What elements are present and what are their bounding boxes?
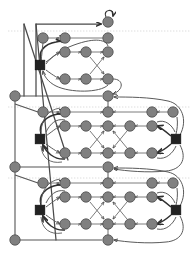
edge-t-sq-to-r2c0 xyxy=(46,70,60,79)
node-top-row0-col0[interactable] xyxy=(38,33,48,43)
node-top-row2-col2[interactable] xyxy=(103,74,113,84)
node-bot-row0-col3[interactable] xyxy=(147,178,157,188)
node-bot-row1-col3[interactable] xyxy=(125,192,135,202)
node-join-lower[interactable] xyxy=(103,162,113,172)
node-bot-row2-col3[interactable] xyxy=(125,219,135,229)
node-bot-row0-col4[interactable] xyxy=(168,178,178,188)
node-mid-row2-col4[interactable] xyxy=(147,148,157,158)
node-mid-row0-col1[interactable] xyxy=(60,107,70,117)
node-bot-row2-col4[interactable] xyxy=(147,219,157,229)
node-top-row2-col1[interactable] xyxy=(81,74,91,84)
square-hub-top-left[interactable] xyxy=(35,60,45,70)
edge-t-r2c2-back-sq xyxy=(43,71,108,91)
graph-svg xyxy=(0,0,190,254)
node-mid-row2-col3[interactable] xyxy=(125,148,135,158)
node-mid-row2-col2[interactable] xyxy=(103,148,113,158)
node-bot-row1-col1[interactable] xyxy=(81,192,91,202)
node-mid-row1-col1[interactable] xyxy=(81,121,91,131)
square-hub-mid-left[interactable] xyxy=(35,134,45,144)
edge-entry-self-loop xyxy=(105,10,113,17)
node-mid-row1-col4[interactable] xyxy=(147,121,157,131)
square-hub-mid-right[interactable] xyxy=(171,134,181,144)
node-mid-row0-col3[interactable] xyxy=(147,107,157,117)
node-top-row0-col2[interactable] xyxy=(103,33,113,43)
node-top-row2-col0[interactable] xyxy=(60,74,70,84)
spine-edges xyxy=(15,96,102,240)
node-mid-row0-col0[interactable] xyxy=(38,107,48,117)
node-mid-row1-col3[interactable] xyxy=(125,121,135,131)
node-bot-row2-col2[interactable] xyxy=(103,219,113,229)
edge-t-r2c2-long-to-join xyxy=(113,79,121,94)
edge-frame-diagonal-to-mid xyxy=(24,24,68,160)
node-entry-top[interactable] xyxy=(103,17,113,27)
diagram-canvas xyxy=(0,0,190,254)
node-spine-bottom[interactable] xyxy=(10,235,20,245)
edge-b-r0c4-to-sqr xyxy=(176,188,177,205)
edge-spine-to-toprow0 xyxy=(15,104,38,112)
edge-m-sqr-to-r1c4 xyxy=(157,126,171,136)
node-join-bottom[interactable] xyxy=(103,235,113,245)
node-mid-row0-col4[interactable] xyxy=(168,107,178,117)
node-mid-row2-col0[interactable] xyxy=(60,148,70,158)
edge-m-r0c4-to-sqr xyxy=(176,117,177,134)
edge-m-sqr-to-r2c4 xyxy=(157,144,171,153)
edge-b-sqr-to-r2c4 xyxy=(157,215,171,224)
node-bot-row2-col0[interactable] xyxy=(60,219,70,229)
node-bot-row1-col2[interactable] xyxy=(103,192,113,202)
node-mid-row1-col0[interactable] xyxy=(60,121,70,131)
node-mid-row1-col2[interactable] xyxy=(103,121,113,131)
square-hub-bot-left[interactable] xyxy=(35,205,45,215)
node-top-row1-col2[interactable] xyxy=(103,47,113,57)
node-top-row0-col1[interactable] xyxy=(60,33,70,43)
node-bot-row0-col0[interactable] xyxy=(38,178,48,188)
node-bot-row0-col1[interactable] xyxy=(60,178,70,188)
node-top-row1-col1[interactable] xyxy=(81,47,91,57)
edge-spine-to-botrow0 xyxy=(15,175,38,183)
guide-lines xyxy=(8,31,190,178)
node-mid-row2-col1[interactable] xyxy=(81,148,91,158)
square-hub-bot-right[interactable] xyxy=(171,205,181,215)
node-spine-lower[interactable] xyxy=(10,162,20,172)
node-bot-row1-col0[interactable] xyxy=(60,192,70,202)
node-spine-upper[interactable] xyxy=(10,91,20,101)
node-bot-row0-col2[interactable] xyxy=(103,178,113,188)
node-top-row1-col0[interactable] xyxy=(60,47,70,57)
node-mid-row0-col2[interactable] xyxy=(103,107,113,117)
node-bot-row2-col1[interactable] xyxy=(81,219,91,229)
edge-b-sqr-to-r1c4 xyxy=(157,197,171,207)
node-bot-row1-col4[interactable] xyxy=(147,192,157,202)
node-join-upper[interactable] xyxy=(103,91,113,101)
